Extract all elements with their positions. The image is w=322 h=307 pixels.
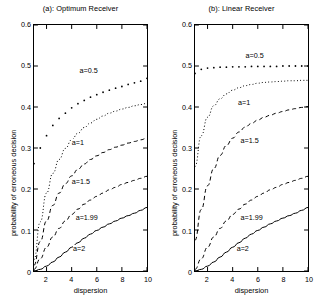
xtick-label: 10 [305,275,313,284]
data-marker [244,66,246,68]
data-marker [115,87,117,89]
ytick-label: 0.2 [21,185,31,194]
ytick-label: 0.1 [21,226,31,235]
xtick-label: 8 [281,275,285,284]
xtick-label: 8 [120,275,124,284]
curve-label-a-1-5: a=1.5 [71,178,90,185]
series-curve [195,176,308,269]
panel-a-xaxis-title: dispersion [33,286,148,295]
data-marker [282,65,284,67]
ytick-label: 0.1 [182,226,192,235]
data-marker [213,67,215,69]
panel-b-xaxis-title: dispersion [194,286,309,295]
series-curve [34,138,147,265]
panel-linear-receiver: (b): Linear Receiver 00.10.20.30.40.50.6… [161,0,322,307]
panel-a-title: (a): Optimum Receiver [0,4,161,13]
data-marker [288,65,290,67]
curve-label-a-1-99: a=1.99 [240,214,263,221]
data-marker [71,107,73,109]
curve-label-a-0-5: a=0.5 [245,52,264,59]
data-marker [146,77,148,79]
panel-b-yaxis-title: probability of erroneous decision [170,130,179,236]
series-curve [34,176,147,269]
data-marker [127,84,129,86]
panel-a-curves [34,25,147,271]
xtick-label: 6 [95,275,99,284]
ytick-label: 0.4 [21,102,31,111]
ytick-label: 0.4 [182,102,192,111]
data-marker [226,66,228,68]
panel-b-plot-area [194,24,309,272]
xtick-label: 2 [44,275,48,284]
data-marker [301,65,303,67]
ytick-label: 0.6 [182,20,192,29]
data-marker [96,94,98,96]
data-marker [134,82,136,84]
ytick-label: 0.3 [182,144,192,153]
data-marker [269,66,271,68]
xtick-label: 6 [256,275,260,284]
data-marker [39,147,41,149]
ytick-label: 0.3 [21,144,31,153]
xtick-label: 10 [144,275,152,284]
data-marker [257,66,259,68]
panel-a-plot-area [33,24,148,272]
data-marker [307,65,309,67]
data-marker [77,103,79,105]
data-marker [232,66,234,68]
data-marker [83,100,85,102]
data-marker [65,112,67,114]
data-marker [251,66,253,68]
panel-optimum-receiver: (a): Optimum Receiver 00.10.20.30.40.50.… [0,0,161,307]
data-marker [108,89,110,91]
series-curve [195,80,308,166]
curve-label-a-0-5: a=0.5 [79,67,98,74]
data-marker [121,86,123,88]
curve-label-a-1: a=1 [71,139,84,146]
xtick-label: 4 [69,275,73,284]
curve-label-a-2: a=2 [73,245,86,252]
ytick-label: 0 [27,268,31,277]
xtick-label: 4 [230,275,234,284]
ytick-label: 0 [188,268,192,277]
data-marker [263,66,265,68]
ytick-label: 0.5 [182,61,192,70]
data-marker [200,68,202,70]
data-marker [52,125,54,127]
curve-label-a-2: a=2 [236,245,249,252]
data-marker [46,135,48,137]
data-marker [207,67,209,69]
xtick-label: 2 [205,275,209,284]
ytick-label: 0.5 [21,61,31,70]
data-marker [90,96,92,98]
data-marker [219,66,221,68]
curve-label-a-1-5: a=1.5 [240,137,259,144]
curve-label-a-1: a=1 [237,99,250,106]
curve-label-a-1-99: a=1.99 [75,214,98,221]
data-marker [58,118,60,120]
ytick-label: 0.2 [182,185,192,194]
data-marker [276,66,278,68]
ytick-label: 0.6 [21,20,31,29]
panel-a-yaxis-title: probability of erroneous decision [9,130,18,236]
data-marker [238,66,240,68]
panel-b-title: (b): Linear Receiver [161,4,322,13]
figure-two-panel-receiver-comparison: (a): Optimum Receiver 00.10.20.30.40.50.… [0,0,322,307]
panel-b-curves [195,25,308,271]
data-marker [102,91,104,93]
data-marker [295,65,297,67]
data-marker [33,163,35,165]
data-marker [140,80,142,82]
data-marker [194,72,196,74]
